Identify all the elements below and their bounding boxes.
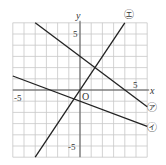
x-tick-5: 5 (133, 80, 138, 90)
line-label-d: ㋓ (124, 9, 134, 20)
line-label-b: ㋑ (147, 122, 157, 133)
x-tick-neg5: -5 (14, 93, 22, 103)
y-tick-5: 5 (73, 29, 78, 39)
line-label-a: ㋐ (147, 102, 157, 113)
origin-label: O (82, 91, 89, 102)
y-tick-neg5: -5 (68, 142, 76, 152)
y-axis-label: y (75, 10, 81, 21)
coordinate-graph: x y O -5 5 5 -5 ㋐ ㋑ ㋓ (0, 0, 166, 165)
x-axis-label: x (149, 85, 155, 96)
